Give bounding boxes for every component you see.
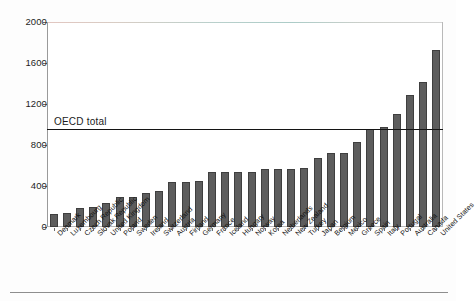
y-tick-label-800: 800 [11, 140, 47, 150]
y-tick-label-1200: 1200 [11, 99, 47, 109]
x-tick-mark-23 [357, 228, 358, 231]
bar-belgium [327, 153, 335, 227]
y-tick-label-400: 400 [11, 181, 47, 191]
x-tick-mark-18 [291, 228, 292, 231]
bar-spain [366, 129, 374, 227]
x-tick-mark-27 [410, 228, 411, 231]
bar-canada [419, 82, 427, 227]
x-axis-labels: DenmarkLuxembourgCzech RepublicSlovak Re… [47, 228, 447, 298]
footer-divider [10, 292, 448, 293]
x-tick-mark-17 [278, 228, 279, 231]
bar-united-states [432, 50, 440, 227]
oecd-total-line [47, 129, 443, 131]
y-axis: 2000 1600 1200 800 400 0 [0, 0, 47, 250]
bar-italy [380, 127, 388, 227]
oecd-total-label: OECD total [54, 116, 107, 127]
y-tick-label-2000: 2000 [11, 17, 47, 27]
x-tick-mark-3 [93, 228, 94, 231]
x-tick-mark-28 [423, 228, 424, 231]
x-tick-mark-12 [212, 228, 213, 231]
x-tick-mark-2 [80, 228, 81, 231]
x-tick-mark-22 [344, 228, 345, 231]
x-tick-mark-13 [225, 228, 226, 231]
y-tick-label-0: 0 [11, 222, 47, 232]
bar-australia [406, 95, 414, 227]
x-tick-mark-8 [159, 228, 160, 231]
bar-denmark [50, 214, 58, 227]
y-tick-label-1600: 1600 [11, 58, 47, 68]
x-tick-mark-7 [146, 228, 147, 231]
bar-portugal [393, 114, 401, 227]
bar-greece [353, 142, 361, 227]
